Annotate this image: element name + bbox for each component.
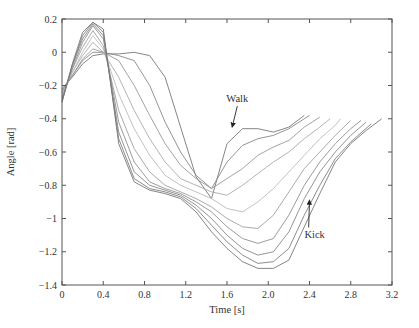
x-tick-label: 2.8 <box>345 289 358 300</box>
y-tick-label: −1.2 <box>39 246 57 257</box>
x-axis-label: Time [s] <box>209 304 245 315</box>
annotations: WalkKick <box>226 93 325 240</box>
series-line <box>62 52 310 188</box>
plot-frame <box>62 19 392 285</box>
x-tick-label: 2.4 <box>303 289 316 300</box>
y-axis-ticks: 0.20−0.2−0.4−0.6−0.8−1−1.2−1.4 <box>39 14 392 291</box>
x-tick-label: 0.4 <box>97 289 110 300</box>
y-tick-label: 0 <box>52 47 57 58</box>
x-tick-label: 2.0 <box>262 289 275 300</box>
series-line <box>62 52 304 198</box>
y-tick-label: −0.6 <box>39 147 57 158</box>
series-line <box>62 42 330 195</box>
y-tick-label: −0.2 <box>39 80 57 91</box>
series-line <box>62 22 371 263</box>
x-tick-label: 0 <box>60 289 65 300</box>
y-tick-label: −1.4 <box>39 280 57 291</box>
y-tick-label: 0.2 <box>45 14 58 25</box>
x-tick-label: 1.2 <box>180 289 193 300</box>
y-tick-label: −0.8 <box>39 180 57 191</box>
x-tick-label: 3.2 <box>386 289 399 300</box>
x-tick-label: 1.6 <box>221 289 234 300</box>
series-line <box>62 36 340 212</box>
annotation-arrow <box>309 200 310 227</box>
y-tick-label: −0.4 <box>39 113 57 124</box>
series-line <box>62 31 351 229</box>
annotation-label: Kick <box>304 229 325 240</box>
y-tick-label: −1 <box>46 213 57 224</box>
x-tick-label: 0.8 <box>138 289 151 300</box>
plot-lines <box>62 22 382 268</box>
angle-time-chart: 00.40.81.21.62.02.42.83.2 0.20−0.2−0.4−0… <box>0 0 419 328</box>
annotation-label: Walk <box>226 93 249 104</box>
annotation-arrow <box>232 106 237 127</box>
y-axis-label: Angle [rad] <box>5 128 16 177</box>
